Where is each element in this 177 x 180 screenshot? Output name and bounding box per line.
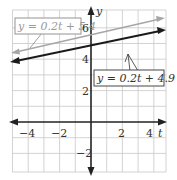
y-axis-label: y — [95, 5, 103, 18]
tick-x-2: 2 — [118, 127, 125, 140]
t-axis-left-arrow-icon — [9, 119, 18, 126]
black-arrow-left-icon — [10, 57, 20, 64]
tick-x-4: 4 — [146, 127, 153, 140]
tick-y-2: 2 — [82, 85, 89, 98]
t-axis-label: t — [158, 127, 163, 140]
gray-arrow-right-icon — [156, 16, 165, 22]
tick-y-minus2: −2 — [76, 147, 92, 160]
tick-x-minus2: −2 — [51, 127, 67, 140]
y-axis-down-arrow-icon — [88, 167, 95, 176]
graph: y = 0.2t + 5.4 y = 0.2t + 4.9 −4 −2 2 4 … — [0, 0, 177, 180]
tick-x-minus4: −4 — [19, 127, 35, 140]
y-axis-up-arrow-icon — [88, 6, 95, 15]
black-equation-label: y = 0.2t + 4.9 — [96, 72, 175, 85]
tick-y-6: 6 — [82, 22, 89, 35]
tick-y-4: 4 — [82, 53, 89, 66]
